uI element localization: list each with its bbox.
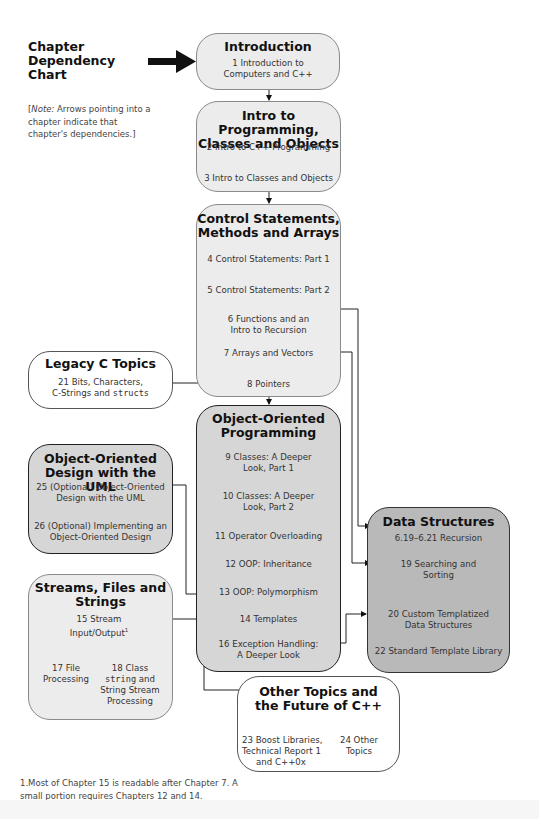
chapter-line: 1 Introduction to xyxy=(197,58,339,69)
box-object-oriented-programming: Object-Oriented Programming 9 Classes: A… xyxy=(196,405,341,672)
box-title-line: Control Statements, xyxy=(197,212,340,226)
chapter-line: 16 Exception Handling: xyxy=(197,639,340,650)
chapter-line: Input/Output1 xyxy=(59,625,139,639)
chart-title: Chapter Dependency Chart xyxy=(28,40,115,82)
chapter-22: 22 Standard Template Library xyxy=(368,646,509,657)
code-keyword: string xyxy=(105,674,136,684)
chapter-6: 6 Functions and an Intro to Recursion xyxy=(197,314,340,336)
chapter-4: 4 Control Statements: Part 1 xyxy=(197,254,340,265)
chapter-line: 19 Searching and xyxy=(368,559,509,570)
chapter-line: Processing xyxy=(97,696,163,707)
box-title-line: Intro to Programming, xyxy=(197,109,340,137)
chapter-line: Data Structures xyxy=(368,620,509,631)
box-data-structures: Data Structures 6.19–6.21 Recursion 19 S… xyxy=(367,507,510,673)
box-introduction: Introduction 1 Introduction to Computers… xyxy=(196,33,340,90)
box-ood-uml: Object-Oriented Design with the UML 25 (… xyxy=(28,444,173,554)
chapter-8: 8 Pointers xyxy=(197,379,340,390)
chart-title-line-3: Chart xyxy=(28,68,115,82)
chapter-15: 15 Stream Input/Output1 xyxy=(59,614,139,639)
chapter-10: 10 Classes: A Deeper Look, Part 2 xyxy=(197,491,340,513)
box-title: Other Topics and the Future of C++ xyxy=(238,685,399,713)
box-title-line: Strings xyxy=(29,595,172,609)
chapter-line: Topics xyxy=(334,746,384,757)
chapter-line: Look, Part 2 xyxy=(197,502,340,513)
chapter-line: 25 (Optional) Object-Oriented xyxy=(29,482,172,493)
chapter-line: 6 Functions and an xyxy=(197,314,340,325)
chapter-line: 20 Custom Templatized xyxy=(368,609,509,620)
box-title-line: Methods and Arrays xyxy=(197,226,340,240)
box-intro-programming: Intro to Programming, Classes and Object… xyxy=(196,101,341,192)
chapter-6-19-recursion: 6.19–6.21 Recursion xyxy=(368,533,509,544)
chapter-line: 26 (Optional) Implementing an xyxy=(29,521,172,532)
chapter-line: 24 Other xyxy=(334,735,384,746)
box-title-line: Object-Oriented xyxy=(29,452,172,466)
chapter-line: 17 File xyxy=(41,663,91,674)
box-title: Streams, Files and Strings xyxy=(29,581,172,609)
box-title-line: Other Topics and xyxy=(238,685,399,699)
box-legacy-c: Legacy C Topics 21 Bits, Characters, C-S… xyxy=(28,351,173,409)
chapter-9: 9 Classes: A Deeper Look, Part 1 xyxy=(197,452,340,474)
page-bottom-band xyxy=(0,800,539,819)
chapter-line: String Stream xyxy=(97,685,163,696)
code-keyword: structs xyxy=(113,388,149,398)
chapter-line: 23 Boost Libraries, xyxy=(242,735,320,746)
chapter-line: 21 Bits, Characters, xyxy=(29,377,172,388)
chapter-12: 12 OOP: Inheritance xyxy=(197,559,340,570)
box-title-line: Object-Oriented xyxy=(197,412,340,426)
chapter-14: 14 Templates xyxy=(197,614,340,625)
footnote: 1.Most of Chapter 15 is readable after C… xyxy=(20,777,240,802)
box-title-line: the Future of C++ xyxy=(238,699,399,713)
chapter-2: 2 Intro to C++ Programming xyxy=(197,142,340,153)
chapter-text: Input/Output xyxy=(70,628,125,638)
chapter-line: Intro to Recursion xyxy=(197,325,340,336)
chapter-20: 20 Custom Templatized Data Structures xyxy=(368,609,509,631)
chapter-line: Computers and C++ xyxy=(197,69,339,80)
chart-title-line-1: Chapter xyxy=(28,40,115,54)
chapter-17: 17 File Processing xyxy=(41,663,91,685)
chapter-24: 24 Other Topics xyxy=(334,735,384,757)
chart-title-line-2: Dependency xyxy=(28,54,115,68)
chapter-text: C-Strings and xyxy=(52,388,113,398)
entry-arrow-icon xyxy=(148,50,198,74)
chapter-line: and C++0x xyxy=(242,757,320,768)
chapter-line: C-Strings and structs xyxy=(29,388,172,399)
chapter-line: Design with the UML xyxy=(29,493,172,504)
chapter-5: 5 Control Statements: Part 2 xyxy=(197,285,340,296)
chapter-7: 7 Arrays and Vectors xyxy=(197,348,340,359)
chapter-25: 25 (Optional) Object-Oriented Design wit… xyxy=(29,482,172,504)
chapter-18: 18 Class string and String Stream Proces… xyxy=(97,663,163,707)
chapter-line: Sorting xyxy=(368,570,509,581)
chapter-text: and xyxy=(136,674,155,684)
chapter-16: 16 Exception Handling: A Deeper Look xyxy=(197,639,340,661)
box-title-line: Streams, Files and xyxy=(29,581,172,595)
box-title-line: Programming xyxy=(197,426,340,440)
chapter-line: Object-Oriented Design xyxy=(29,532,172,543)
chapter-23: 23 Boost Libraries, Technical Report 1 a… xyxy=(242,735,320,768)
chapter-line: 18 Class xyxy=(97,663,163,674)
chapter-line: Look, Part 1 xyxy=(197,463,340,474)
chapter-13: 13 OOP: Polymorphism xyxy=(197,587,340,598)
box-other-topics: Other Topics and the Future of C++ 23 Bo… xyxy=(237,676,400,772)
chapter-1: 1 Introduction to Computers and C++ xyxy=(197,58,339,80)
box-title: Introduction xyxy=(197,40,339,54)
chapter-line: A Deeper Look xyxy=(197,650,340,661)
chapter-line: 15 Stream xyxy=(59,614,139,625)
box-title: Object-Oriented Programming xyxy=(197,412,340,440)
chapter-3: 3 Intro to Classes and Objects xyxy=(197,173,340,184)
chapter-line: string and xyxy=(97,674,163,685)
footnote-marker: 1 xyxy=(125,627,129,633)
footnote-line: 1.Most of Chapter 15 is readable after C… xyxy=(20,777,240,790)
box-title: Data Structures xyxy=(368,515,509,529)
box-control-statements: Control Statements, Methods and Arrays 4… xyxy=(196,204,341,397)
box-title: Control Statements, Methods and Arrays xyxy=(197,212,340,240)
chapter-line: 9 Classes: A Deeper xyxy=(197,452,340,463)
chapter-line: 10 Classes: A Deeper xyxy=(197,491,340,502)
legend-note: [Note: Arrows pointing into a chapter in… xyxy=(28,103,158,141)
box-streams-files-strings: Streams, Files and Strings 15 Stream Inp… xyxy=(28,574,173,720)
chapter-26: 26 (Optional) Implementing an Object-Ori… xyxy=(29,521,172,543)
chapter-21: 21 Bits, Characters, C-Strings and struc… xyxy=(29,377,172,399)
chapter-line: Technical Report 1 xyxy=(242,746,320,757)
note-label: Note: xyxy=(31,104,54,114)
chapter-line: Processing xyxy=(41,674,91,685)
chapter-11: 11 Operator Overloading xyxy=(197,531,340,542)
